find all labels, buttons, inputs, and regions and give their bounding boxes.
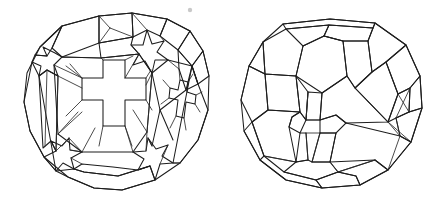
left-polyhedron (24, 13, 209, 190)
stray-speck-mark (188, 8, 192, 12)
figure-canvas (0, 0, 444, 205)
right-polyhedron (241, 19, 422, 188)
figure-plate (0, 0, 444, 205)
